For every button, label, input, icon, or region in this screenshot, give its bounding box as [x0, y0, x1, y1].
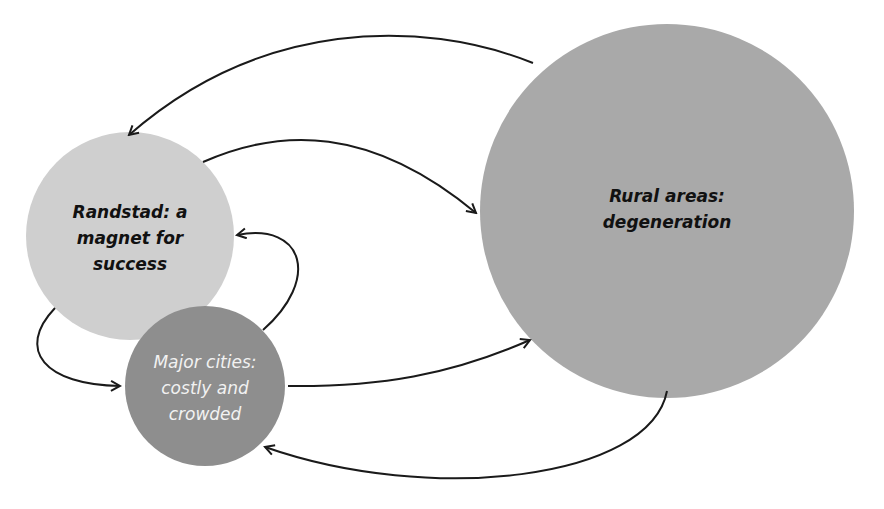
arrow-major-to-rural [288, 340, 530, 386]
arrow-rural-to-major [265, 391, 667, 478]
arrow-randstad-to-rural [203, 140, 476, 213]
node-randstad-label: Randstad: a magnet for success [73, 199, 188, 277]
arrow-major-to-randstad [237, 233, 298, 330]
cycle-diagram: Randstad: a magnet for success Major cit… [0, 0, 884, 509]
arrow-rural-to-randstad [129, 36, 533, 135]
node-major-cities-label: Major cities: costly and crowded [153, 349, 256, 427]
node-rural-label: Rural areas: degeneration [603, 183, 732, 235]
